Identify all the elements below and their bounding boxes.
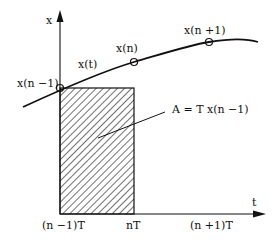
area-label: A = T x(n −1) xyxy=(171,103,249,116)
integration-diagram: x t x(t) x(n −1) x(n) x(n +1) A = T x(n … xyxy=(0,0,280,248)
area-rectangle xyxy=(60,88,134,214)
tick-label-n-T: nT xyxy=(126,219,141,232)
point-label-x-n: x(n) xyxy=(116,42,138,55)
curve-x-t xyxy=(23,39,258,107)
y-axis-label: x xyxy=(46,14,53,27)
tick-label-n-minus-1-T: (n −1)T xyxy=(42,219,85,232)
curve-label: x(t) xyxy=(78,58,97,71)
x-axis-label: t xyxy=(252,196,257,209)
tick-label-n-plus-1-T: (n +1)T xyxy=(190,219,233,232)
point-label-x-n-plus-1: x(n +1) xyxy=(184,24,226,37)
x-axis-arrow-icon xyxy=(253,211,266,218)
point-label-x-n-minus-1: x(n −1) xyxy=(17,77,59,90)
y-axis-arrow-icon xyxy=(57,10,64,22)
